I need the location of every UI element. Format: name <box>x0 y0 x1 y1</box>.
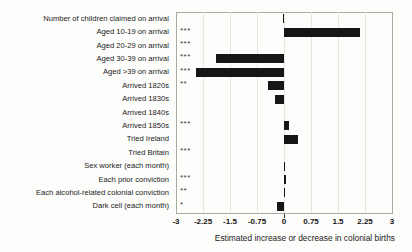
significance-stars: ** <box>180 80 187 88</box>
x-tick-label: 1.5 <box>332 217 343 226</box>
category-label: Aged 30-39 on arrival <box>0 54 169 64</box>
x-tick-label: 2.25 <box>357 217 373 226</box>
category-label: Arrived 1840s <box>0 108 169 118</box>
category-label: Each prior conviction <box>0 175 169 185</box>
bar <box>216 54 284 63</box>
bar <box>196 68 284 77</box>
x-tick-label: 0 <box>282 217 286 226</box>
category-label: Number of children claimed on arrival <box>0 14 169 24</box>
bar <box>277 202 284 211</box>
significance-stars: *** <box>180 147 191 155</box>
category-label: Aged >39 on arrival <box>0 67 169 77</box>
bar <box>284 121 289 130</box>
bar <box>284 28 360 37</box>
category-label: Dark cell (each month) <box>0 201 169 211</box>
significance-stars: *** <box>180 67 191 75</box>
category-label: Aged 20-29 on arrival <box>0 41 169 51</box>
category-label: Each alcohol-related colonial conviction <box>0 188 169 198</box>
bar <box>284 162 285 171</box>
zero-tick <box>284 214 285 218</box>
gridline <box>230 12 231 213</box>
x-tick-label: 0.75 <box>303 217 319 226</box>
category-label: Aged 10-19 on arrival <box>0 27 169 37</box>
x-axis-title: Estimated increase or decrease in coloni… <box>176 233 395 243</box>
significance-stars: *** <box>180 27 191 35</box>
bar <box>268 81 284 90</box>
gridline <box>365 12 366 213</box>
gridline <box>338 12 339 213</box>
gridline <box>257 12 258 213</box>
bar <box>275 95 284 104</box>
bar <box>284 135 298 144</box>
gridline <box>311 12 312 213</box>
category-label: Arrived 1820s <box>0 81 169 91</box>
colonial-births-bar-chart: Estimated increase or decrease in coloni… <box>0 0 412 252</box>
gridline <box>203 12 204 213</box>
significance-stars: *** <box>180 40 191 48</box>
significance-stars: * <box>180 201 184 209</box>
bar <box>284 175 286 184</box>
x-tick-label: -2.25 <box>194 217 212 226</box>
significance-stars: *** <box>180 120 191 128</box>
x-tick-label: -1.5 <box>223 217 237 226</box>
category-label: Arrived 1850s <box>0 121 169 131</box>
x-tick-label: -3 <box>172 217 179 226</box>
x-tick-label: 3 <box>390 217 394 226</box>
category-label: Sex worker (each month) <box>0 161 169 171</box>
category-label: Arrived 1830s <box>0 94 169 104</box>
x-tick-label: -0.75 <box>248 217 266 226</box>
significance-stars: *** <box>180 53 191 61</box>
significance-stars: ** <box>180 187 187 195</box>
bar <box>283 14 284 23</box>
category-label: Tried Ireland <box>0 134 169 144</box>
category-label: Tried Britain <box>0 148 169 158</box>
bar <box>284 188 285 197</box>
significance-stars: *** <box>180 174 191 182</box>
